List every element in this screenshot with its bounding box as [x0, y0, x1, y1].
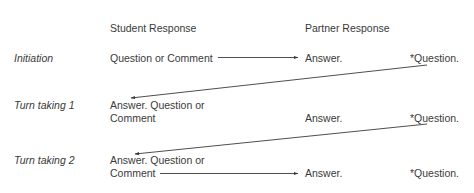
arrow-partner-question-to-turn-taking-1 [131, 65, 427, 98]
arrow-partner-question-to-turn-taking-2 [135, 124, 427, 154]
arrows-layer [0, 0, 474, 193]
